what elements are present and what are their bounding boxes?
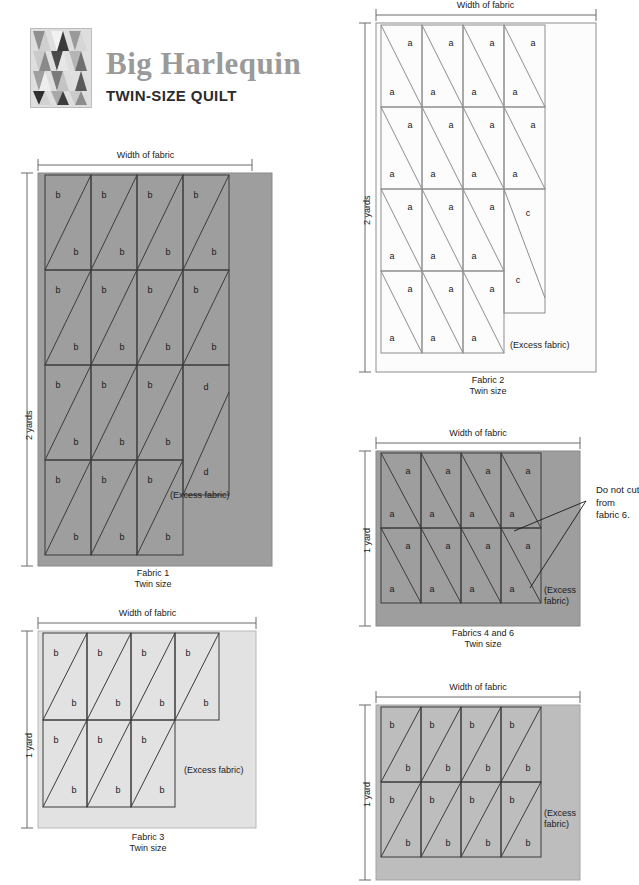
svg-text:a: a bbox=[485, 541, 490, 551]
svg-text:a: a bbox=[512, 169, 517, 179]
width-measure-bar bbox=[376, 437, 580, 449]
svg-text:a: a bbox=[448, 284, 453, 294]
caption-line-1: Fabric 3 bbox=[78, 832, 218, 843]
caption-line-1: Fabric 2 bbox=[418, 375, 558, 386]
svg-text:b: b bbox=[147, 285, 152, 295]
excess-fabric-label: (Excess fabric) bbox=[544, 808, 576, 830]
svg-text:b: b bbox=[73, 532, 78, 542]
harlequin-quilt-thumbnail-icon bbox=[30, 28, 92, 108]
svg-text:b: b bbox=[55, 380, 60, 390]
height-label: 2 yards bbox=[24, 410, 34, 440]
svg-text:b: b bbox=[485, 763, 490, 773]
svg-text:b: b bbox=[147, 190, 152, 200]
svg-text:a: a bbox=[448, 120, 453, 130]
svg-text:a: a bbox=[389, 87, 394, 97]
diagram-fabric-2: aaaa aaaa aaaa aaaa aaa aaa aaa aaa cc W… bbox=[348, 0, 626, 410]
svg-text:a: a bbox=[448, 202, 453, 212]
svg-text:a: a bbox=[445, 466, 450, 476]
svg-text:b: b bbox=[193, 285, 198, 295]
svg-text:b: b bbox=[211, 342, 216, 352]
svg-text:b: b bbox=[429, 720, 434, 730]
width-measure-bar bbox=[38, 617, 256, 629]
width-measure-bar bbox=[38, 159, 252, 171]
height-measure-bar bbox=[21, 631, 33, 828]
svg-text:b: b bbox=[101, 380, 106, 390]
diagram-fabric-3: bbbb bbbb bbb bbb Width of fabric 1 yard… bbox=[18, 608, 278, 873]
svg-text:a: a bbox=[389, 333, 394, 343]
svg-text:b: b bbox=[159, 785, 164, 795]
height-label: 1 yard bbox=[362, 782, 372, 807]
svg-text:b: b bbox=[97, 648, 102, 658]
caption-line-2: Twin size bbox=[78, 843, 218, 854]
svg-text:a: a bbox=[430, 251, 435, 261]
svg-text:a: a bbox=[448, 38, 453, 48]
svg-text:b: b bbox=[119, 247, 124, 257]
page-subtitle: TWIN-SIZE QUILT bbox=[106, 87, 237, 104]
excess-fabric-label: (Excess fabric) bbox=[544, 585, 576, 607]
width-of-fabric-label: Width of fabric bbox=[418, 0, 553, 10]
excess-fabric-label: (Excess fabric) bbox=[510, 340, 570, 351]
svg-text:b: b bbox=[101, 475, 106, 485]
height-label: 1 yard bbox=[24, 733, 34, 758]
svg-text:b: b bbox=[53, 648, 58, 658]
svg-text:b: b bbox=[429, 795, 434, 805]
svg-text:b: b bbox=[469, 795, 474, 805]
svg-text:b: b bbox=[469, 720, 474, 730]
svg-text:a: a bbox=[389, 251, 394, 261]
width-measure-bar bbox=[376, 691, 580, 703]
caption-line-1: Fabrics 4 and 6 bbox=[408, 628, 558, 639]
svg-text:b: b bbox=[141, 648, 146, 658]
svg-text:a: a bbox=[471, 87, 476, 97]
svg-text:b: b bbox=[119, 532, 124, 542]
svg-text:a: a bbox=[530, 120, 535, 130]
svg-text:b: b bbox=[509, 795, 514, 805]
svg-text:b: b bbox=[509, 720, 514, 730]
width-of-fabric-label: Width of fabric bbox=[418, 682, 538, 692]
svg-text:b: b bbox=[53, 735, 58, 745]
width-of-fabric-label: Width of fabric bbox=[418, 428, 538, 438]
svg-text:a: a bbox=[407, 202, 412, 212]
svg-text:b: b bbox=[193, 190, 198, 200]
svg-text:a: a bbox=[485, 466, 490, 476]
svg-text:b: b bbox=[73, 342, 78, 352]
excess-fabric-label: (Excess fabric) bbox=[170, 490, 230, 501]
svg-text:a: a bbox=[407, 120, 412, 130]
svg-text:b: b bbox=[71, 698, 76, 708]
svg-text:b: b bbox=[211, 247, 216, 257]
svg-text:b: b bbox=[97, 735, 102, 745]
height-measure-bar bbox=[21, 173, 33, 566]
svg-text:b: b bbox=[115, 698, 120, 708]
svg-text:b: b bbox=[159, 698, 164, 708]
height-label: 1 yard bbox=[362, 528, 372, 553]
svg-text:a: a bbox=[407, 284, 412, 294]
svg-text:b: b bbox=[101, 285, 106, 295]
width-of-fabric-label: Width of fabric bbox=[78, 150, 213, 160]
svg-text:b: b bbox=[119, 342, 124, 352]
page-title: Big Harlequin bbox=[106, 46, 301, 82]
svg-text:b: b bbox=[165, 247, 170, 257]
svg-text:a: a bbox=[430, 333, 435, 343]
svg-text:a: a bbox=[389, 584, 394, 594]
svg-text:a: a bbox=[530, 38, 535, 48]
svg-text:a: a bbox=[430, 169, 435, 179]
svg-text:b: b bbox=[485, 838, 490, 848]
page-header: Big Harlequin TWIN-SIZE QUILT bbox=[30, 28, 360, 108]
svg-text:b: b bbox=[165, 342, 170, 352]
height-label: 2 yards bbox=[362, 195, 372, 225]
svg-text:a: a bbox=[445, 541, 450, 551]
svg-text:b: b bbox=[101, 190, 106, 200]
svg-text:b: b bbox=[389, 795, 394, 805]
svg-text:b: b bbox=[525, 763, 530, 773]
svg-text:a: a bbox=[429, 584, 434, 594]
svg-text:b: b bbox=[445, 838, 450, 848]
svg-text:a: a bbox=[509, 584, 514, 594]
svg-text:b: b bbox=[525, 838, 530, 848]
svg-text:b: b bbox=[185, 648, 190, 658]
svg-text:b: b bbox=[71, 785, 76, 795]
svg-text:b: b bbox=[73, 247, 78, 257]
svg-text:b: b bbox=[55, 475, 60, 485]
svg-text:a: a bbox=[489, 38, 494, 48]
svg-text:b: b bbox=[165, 437, 170, 447]
svg-text:a: a bbox=[489, 284, 494, 294]
caption-line-2: Twin size bbox=[418, 386, 558, 397]
